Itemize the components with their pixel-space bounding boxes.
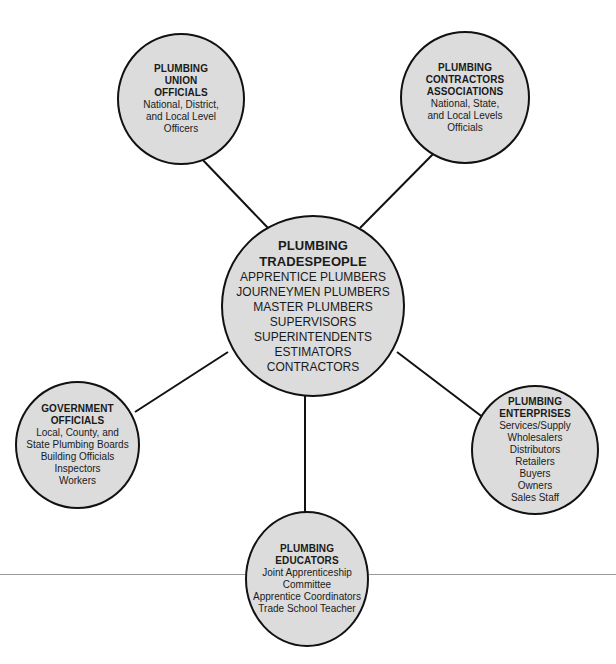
node-item: Apprentice Coordinators (253, 591, 361, 603)
node-item: Wholesalers (507, 432, 562, 444)
node-item: APPRENTICE PLUMBERS (240, 270, 386, 285)
node-title: PLUMBING (280, 543, 334, 555)
node-item: SUPERINTENDENTS (254, 330, 372, 345)
node-item: ESTIMATORS (275, 345, 352, 360)
node-item: Inspectors (54, 463, 100, 475)
node-item: State Plumbing Boards (26, 439, 128, 451)
connector-government (135, 352, 228, 412)
node-item: JOURNEYMEN PLUMBERS (236, 285, 389, 300)
connector-union (200, 157, 268, 228)
node-item: Building Officials (41, 451, 115, 463)
node-title: CONTRACTORS (426, 74, 505, 86)
node-item: MASTER PLUMBERS (253, 300, 372, 315)
node-plumbing-educators: PLUMBING EDUCATORS Joint Apprenticeship … (245, 511, 369, 647)
node-item: National, District, (143, 99, 219, 111)
node-title: UNION (165, 75, 198, 87)
node-item: Services/Supply (499, 420, 571, 432)
node-plumbing-tradespeople: PLUMBING TRADESPEOPLE APPRENTICE PLUMBER… (221, 215, 405, 397)
node-government-officials: GOVERNMENT OFFICIALS Local, County, and … (15, 381, 140, 509)
node-title: PLUMBING (278, 238, 348, 254)
node-title: EDUCATORS (275, 555, 338, 567)
node-plumbing-enterprises: PLUMBING ENTERPRISES Services/Supply Who… (471, 385, 599, 515)
node-item: and Local Levels (427, 110, 502, 122)
node-plumbing-union-officials: PLUMBING UNION OFFICIALS National, Distr… (117, 33, 245, 165)
node-item: SUPERVISORS (270, 315, 356, 330)
node-item: Officials (447, 122, 482, 134)
node-title: TRADESPEOPLE (259, 254, 366, 270)
node-title: OFFICIALS (51, 415, 105, 427)
node-item: Distributors (510, 444, 561, 456)
node-title: OFFICIALS (154, 87, 208, 99)
node-title: PLUMBING (508, 396, 562, 408)
node-item: National, State, (431, 98, 499, 110)
node-item: Local, County, and (36, 427, 119, 439)
node-item: Workers (59, 475, 96, 487)
node-title: PLUMBING (438, 62, 492, 74)
node-plumbing-contractors-associations: PLUMBING CONTRACTORS ASSOCIATIONS Nation… (400, 31, 530, 164)
connector-contractors (360, 147, 440, 228)
node-title: ENTERPRISES (499, 408, 571, 420)
node-title: PLUMBING (154, 63, 208, 75)
node-item: Joint Apprenticeship (262, 567, 352, 579)
node-title: GOVERNMENT (41, 403, 114, 415)
node-item: Owners (518, 480, 552, 492)
node-title: ASSOCIATIONS (427, 86, 504, 98)
node-item: Buyers (519, 468, 550, 480)
node-item: Trade School Teacher (258, 603, 355, 615)
node-item: Retailers (515, 456, 554, 468)
node-item: and Local Level (146, 111, 216, 123)
node-item: CONTRACTORS (267, 360, 359, 375)
node-item: Committee (283, 579, 331, 591)
node-item: Sales Staff (511, 492, 559, 504)
node-item: Officers (164, 123, 198, 135)
